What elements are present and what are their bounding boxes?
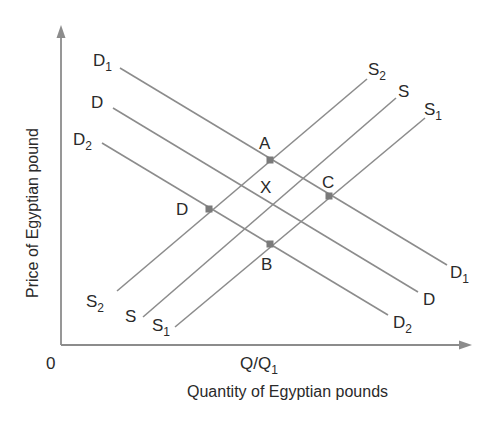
label-point-d: D <box>176 200 188 219</box>
demand-curves <box>102 68 447 315</box>
label-s1-bottom: S1 <box>152 316 170 339</box>
origin-label: 0 <box>46 354 55 373</box>
label-point-c: C <box>322 173 334 192</box>
label-d1-left: D1 <box>93 51 112 74</box>
x-tick-label-q: Q/Q1 <box>240 354 278 377</box>
label-s-bottom: S <box>125 307 136 326</box>
y-axis-arrow-icon <box>57 25 66 38</box>
label-d2-right: D2 <box>393 313 412 336</box>
label-point-x: X <box>260 178 271 197</box>
label-s1-top: S1 <box>424 100 442 123</box>
label-point-b: B <box>261 255 272 274</box>
label-d2-left: D2 <box>73 130 92 153</box>
point-b-marker <box>267 241 274 248</box>
label-d-right: D <box>423 290 435 309</box>
label-point-a: A <box>259 134 271 153</box>
exchange-rate-diagram: D1 D D2 S2 S S1 D1 D D2 S2 S S1 A X C D … <box>0 0 500 422</box>
x-axis-title: Quantity of Egyptian pounds <box>187 383 388 400</box>
label-d-left: D <box>91 93 103 112</box>
label-s2-top: S2 <box>368 60 386 83</box>
x-axis-arrow-icon <box>459 341 472 350</box>
point-d-marker <box>206 206 213 213</box>
label-d1-right: D1 <box>450 263 469 286</box>
supply-curve-s1 <box>175 118 425 327</box>
y-axis-title: Price of Egyptian pound <box>24 128 41 298</box>
point-c-marker <box>326 193 333 200</box>
point-a-marker <box>267 157 274 164</box>
label-s-top: S <box>398 82 409 101</box>
label-s2-bottom: S2 <box>86 292 104 315</box>
